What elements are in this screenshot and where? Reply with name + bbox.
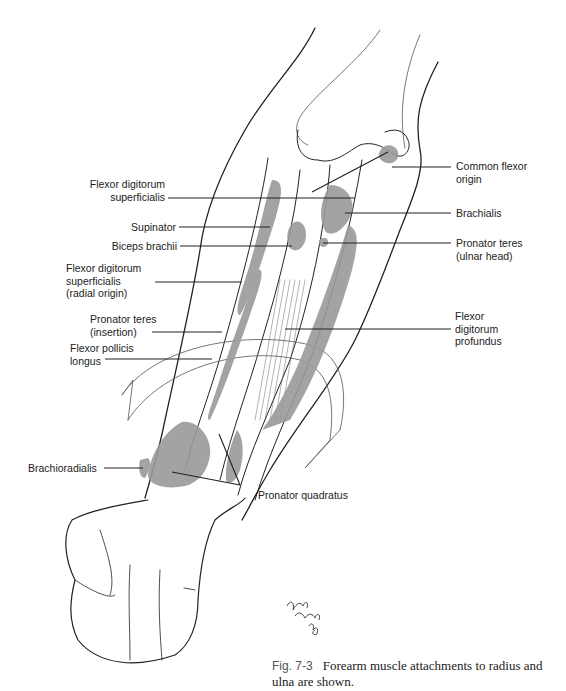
label-line: Flexor digitorum bbox=[90, 178, 165, 190]
fdp-area bbox=[262, 225, 357, 430]
artist-signature bbox=[283, 592, 333, 642]
label-brachioradialis: Brachioradialis bbox=[28, 462, 97, 475]
label-line: Pronator teres bbox=[456, 237, 523, 249]
label-fds-radial-origin: Flexor digitorumsuperficialis(radial ori… bbox=[66, 262, 141, 300]
label-flexor-pollicis-longus: Flexor pollicislongus bbox=[70, 342, 134, 367]
label-line: Supinator bbox=[131, 221, 176, 233]
label-biceps-brachii: Biceps brachii bbox=[50, 240, 177, 253]
label-line: Flexor digitorum bbox=[66, 262, 141, 274]
label-line: superficialis bbox=[110, 191, 165, 203]
fist-outline bbox=[66, 498, 245, 663]
label-line: (ulnar head) bbox=[456, 250, 513, 262]
figure-caption: Fig. 7-3Forearm muscle attachments to ra… bbox=[272, 658, 562, 690]
label-line: (insertion) bbox=[90, 326, 137, 338]
label-line: Pronator teres bbox=[90, 313, 157, 325]
label-pronator-quadratus: Pronator quadratus bbox=[258, 489, 348, 502]
label-flexor-digitorum-superficialis: Flexor digitorumsuperficialis bbox=[60, 178, 165, 203]
label-line: Brachioradialis bbox=[28, 462, 97, 474]
label-line: longus bbox=[70, 355, 101, 367]
label-line: Flexor pollicis bbox=[70, 342, 134, 354]
label-flexor-digitorum-profundus: Flexordigitorumprofundus bbox=[455, 310, 502, 348]
label-line: Common flexor bbox=[456, 160, 527, 172]
figure-number: Fig. 7-3 bbox=[272, 659, 313, 673]
label-common-flexor-origin: Common flexororigin bbox=[456, 160, 527, 185]
arm-outline-left bbox=[145, 28, 315, 498]
label-line: Flexor bbox=[455, 310, 484, 322]
label-line: Biceps brachii bbox=[112, 240, 177, 252]
label-line: Brachialis bbox=[456, 207, 502, 219]
label-pronator-teres-insertion: Pronator teres(insertion) bbox=[90, 313, 157, 338]
label-line: Pronator quadratus bbox=[258, 489, 348, 501]
label-line: (radial origin) bbox=[66, 287, 127, 299]
label-line: origin bbox=[456, 173, 482, 185]
label-line: profundus bbox=[455, 335, 502, 347]
fpl-area bbox=[208, 270, 262, 420]
label-line: digitorum bbox=[455, 323, 498, 335]
common-flexor-origin-area bbox=[379, 145, 398, 163]
label-line: superficialis bbox=[66, 275, 121, 287]
label-brachialis: Brachialis bbox=[456, 207, 502, 220]
label-supinator: Supinator bbox=[60, 221, 176, 234]
label-pronator-teres-ulnar-head: Pronator teres(ulnar head) bbox=[456, 237, 523, 262]
